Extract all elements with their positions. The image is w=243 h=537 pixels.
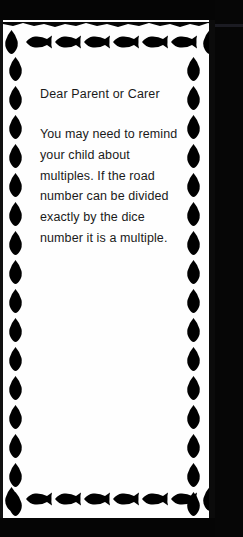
fish-horizontal-icon [171, 35, 197, 53]
letter-greeting: Dear Parent or Carer [40, 86, 190, 102]
fish-vertical-icon [186, 289, 201, 317]
fish-horizontal-icon [55, 35, 81, 53]
scan-band-bottom [0, 518, 243, 537]
fish-vertical-icon [8, 347, 23, 375]
fish-vertical-icon [186, 318, 201, 346]
fish-horizontal-icon [26, 35, 52, 53]
fish-horizontal-icon [55, 492, 81, 510]
fish-vertical-icon [8, 144, 23, 172]
fish-vertical-icon [8, 173, 23, 201]
fish-vertical-icon [8, 260, 23, 288]
letter-text-block: Dear Parent or Carer You may need to rem… [40, 86, 190, 249]
fish-vertical-icon [8, 86, 23, 114]
fish-vertical-icon [4, 487, 19, 515]
fish-horizontal-icon [84, 35, 110, 53]
fish-horizontal-icon [84, 492, 110, 510]
scan-shadow-left [0, 18, 3, 523]
fish-vertical-icon [8, 202, 23, 230]
fish-vertical-icon [8, 289, 23, 317]
fish-vertical-icon [186, 434, 201, 462]
fish-vertical-icon [8, 434, 23, 462]
fish-vertical-icon [186, 405, 201, 433]
fish-column-left [2, 32, 28, 510]
scan-glare-right [215, 24, 243, 27]
letter-paragraph: You may need to remind your child about … [40, 124, 186, 249]
scan-band-right [215, 0, 243, 537]
fish-vertical-icon [186, 347, 201, 375]
fish-row-top [0, 32, 216, 56]
fish-vertical-icon [8, 463, 23, 491]
fish-vertical-icon [186, 57, 201, 85]
fish-row-bottom [0, 489, 216, 513]
fish-vertical-icon [4, 30, 19, 58]
fish-vertical-icon [186, 376, 201, 404]
fish-horizontal-icon [113, 35, 139, 53]
paper-sheet: Dear Parent or Carer You may need to rem… [0, 18, 216, 523]
fish-vertical-icon [8, 405, 23, 433]
fish-vertical-icon [186, 463, 201, 491]
fish-vertical-icon [8, 57, 23, 85]
fish-horizontal-icon [142, 35, 168, 53]
scan-band-top [0, 0, 243, 20]
fish-vertical-icon [8, 376, 23, 404]
fish-vertical-icon [8, 231, 23, 259]
scanned-page: Dear Parent or Carer You may need to rem… [0, 0, 243, 537]
fish-vertical-icon [186, 260, 201, 288]
fish-vertical-icon [8, 318, 23, 346]
fish-horizontal-icon [142, 492, 168, 510]
fish-horizontal-icon [171, 492, 197, 510]
fish-vertical-icon [8, 115, 23, 143]
fish-horizontal-icon [26, 492, 52, 510]
fish-horizontal-icon [113, 492, 139, 510]
